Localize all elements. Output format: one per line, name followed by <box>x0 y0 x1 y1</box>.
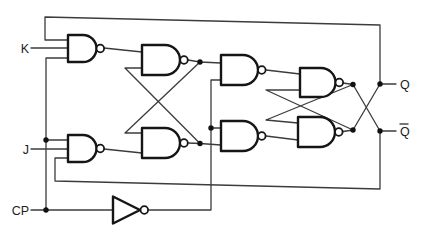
nand-g3-bubble <box>97 145 105 153</box>
nand-g3-body <box>68 135 97 162</box>
nand-g4-bubble <box>180 139 188 147</box>
nand-g5-body <box>221 55 258 85</box>
nand-gate-g7-slave-latch-top <box>300 68 343 97</box>
not-gate-bubble <box>141 206 149 214</box>
nand-gate-g3-j-input <box>68 135 104 162</box>
nand-g6-body <box>221 121 258 151</box>
nand-gate-g6-slave-steer-bottom <box>221 121 266 151</box>
nand-g7-bubble <box>336 79 344 87</box>
input-label-k: K <box>21 42 30 56</box>
wire-g3-to-g4 <box>104 149 142 153</box>
wire-g2-to-g5 <box>188 60 221 63</box>
circuit-diagram: K J CP Q Q <box>0 0 423 243</box>
wire-cp-vertical <box>46 58 68 210</box>
junction-cp-line <box>43 207 48 212</box>
junction-cpbar-g6 <box>208 125 213 130</box>
wire-g5-to-g7 <box>266 70 300 74</box>
nand-g2-body <box>142 45 180 75</box>
nand-gate-g4-master-bottom <box>142 128 188 158</box>
not-gate-clock-inverter <box>113 197 148 224</box>
output-label-q-bar-text: Q <box>400 125 410 139</box>
not-gate-body <box>113 197 140 224</box>
output-label-q: Q <box>400 78 410 92</box>
gates <box>68 35 343 224</box>
nand-g2-bubble <box>180 56 188 64</box>
nand-g8-bubble <box>335 128 343 136</box>
input-label-cp: CP <box>12 204 29 218</box>
nand-gate-g1-k-input <box>68 35 104 62</box>
junction-q-node <box>377 81 382 86</box>
junction-g2-output <box>197 59 202 64</box>
nand-g1-body <box>68 35 97 62</box>
nand-gate-g2-master-top <box>142 45 188 75</box>
junction-g7-output <box>350 82 355 87</box>
junction-g8-output <box>350 127 355 132</box>
nand-g5-bubble <box>258 66 266 74</box>
junction-g4-output <box>197 141 202 146</box>
nand-g7-body <box>300 68 336 97</box>
junction-cp-g3 <box>43 137 48 142</box>
input-label-j: J <box>23 143 29 157</box>
nand-g8-body <box>298 117 335 147</box>
nand-gate-g5-slave-steer-top <box>221 55 266 85</box>
wire-g1-to-g2 <box>104 48 142 52</box>
nand-g1-bubble <box>97 45 105 53</box>
nand-g4-body <box>142 128 180 158</box>
junction-qbar-node <box>377 128 382 133</box>
wire-g6-to-g8 <box>266 136 298 140</box>
nand-g6-bubble <box>258 132 266 140</box>
jk-flipflop-schematic: K J CP Q Q <box>0 0 423 243</box>
wire-g4-to-g6 <box>188 143 221 145</box>
output-label-q-bar: Q <box>400 124 411 139</box>
